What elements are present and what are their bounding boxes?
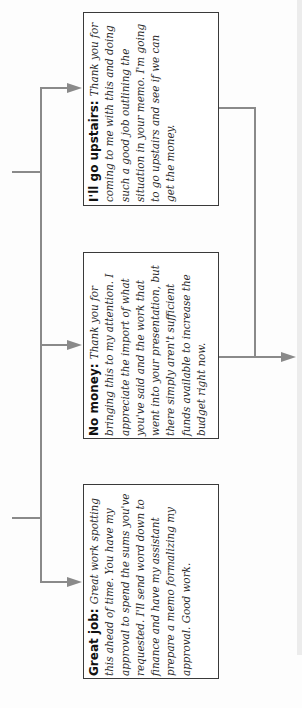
page-edge-strip <box>297 0 302 655</box>
left-trunk-line <box>40 88 42 583</box>
box-title: Great job: <box>87 604 101 676</box>
right-merge-line <box>254 107 256 358</box>
arrow-icon-great-job <box>67 577 82 587</box>
outgoing-line-upstairs <box>219 107 256 109</box>
branch-line-no-money <box>40 344 70 346</box>
box-body: Thank you for coming to me with this and… <box>88 23 176 202</box>
incoming-connector-top <box>12 171 41 173</box>
arrow-icon-no-money <box>67 340 82 350</box>
incoming-connector-bottom <box>12 517 41 519</box>
response-box-no-money: No money: Thank you for bringing this to… <box>83 252 219 439</box>
box-body: Thank you for bringing this to my attent… <box>88 265 207 436</box>
branch-line-upstairs <box>40 87 70 89</box>
box-body: Great work spotting this ahead of time. … <box>88 493 192 675</box>
arrow-icon-upstairs <box>67 83 82 93</box>
box-title: I'll go upstairs: <box>87 96 101 202</box>
response-box-great-job: Great job: Great work spotting this ahea… <box>83 484 219 679</box>
arrow-icon-outgoing <box>281 352 296 362</box>
outgoing-line-no-money <box>219 356 283 358</box>
response-box-upstairs: I'll go upstairs: Thank you for coming t… <box>83 12 219 206</box>
box-title: No money: <box>87 359 101 436</box>
branch-line-great-job <box>40 581 70 583</box>
decision-diagram: I'll go upstairs: Thank you for coming t… <box>0 0 302 708</box>
